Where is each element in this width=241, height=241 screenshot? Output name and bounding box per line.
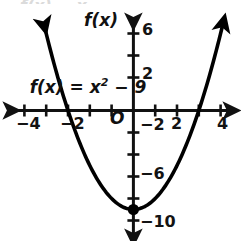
y-tick-label-2: 2 (142, 66, 153, 82)
x-tick-label-neg4: −4 (16, 116, 41, 132)
graph-figure: f(x) = x (0, 0, 241, 241)
y-tick-label-neg6: −6 (140, 166, 165, 182)
vertex-point (128, 204, 139, 215)
x-tick-label-neg2: −2 (60, 116, 85, 132)
y-axis-function-label: f(x) (84, 12, 118, 29)
y-tick-label-neg10: −10 (140, 214, 176, 230)
y-tick-label-neg2: −2 (140, 117, 165, 133)
x-tick-label-2: 2 (171, 116, 182, 132)
equation-prefix: f(x) = x (30, 77, 101, 97)
origin-label: O (110, 110, 124, 127)
equation-suffix: − 9 (108, 77, 146, 97)
equation-label: f(x) = x2 − 9 (6, 60, 146, 113)
y-tick-label-6: 6 (142, 22, 153, 38)
x-tick-label-4: 4 (217, 116, 228, 132)
